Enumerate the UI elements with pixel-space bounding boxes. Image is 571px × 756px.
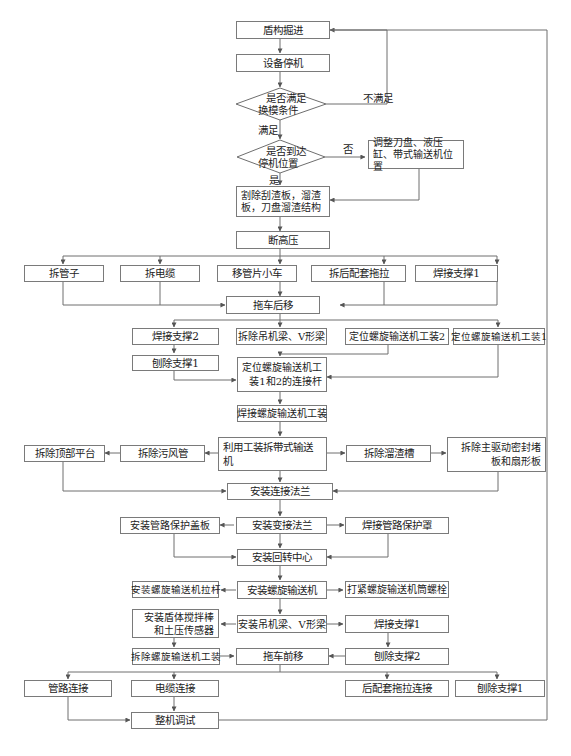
node-label: 整机调试 (155, 714, 195, 727)
node-label: 焊接管路保护罩 (362, 519, 432, 532)
node-move-segment-car: 移管片小车 (217, 265, 297, 282)
node-install-flange: 安装连接法兰 (227, 483, 333, 500)
node-label: 拖车后移 (253, 299, 293, 312)
node-pipe-connection: 管路连接 (24, 680, 112, 697)
node-position-connecting-rod: 定位螺旋输送机工装1和2的连接杆 (237, 357, 327, 392)
node-label: 焊接螺旋输送机工装 (237, 407, 327, 420)
node-install-adapter-flange: 安装变接法兰 (236, 517, 327, 534)
node-cut-scraper: 割除刮渣板，溜渣板，刀盘溜渣结构 (236, 186, 330, 217)
edge-label-satisfied: 满足 (258, 124, 278, 136)
node-label: 拆电缆 (145, 267, 175, 280)
node-label: 焊接支撑1 (374, 618, 421, 631)
node-label: 打紧螺旋输送机筒螺栓 (347, 583, 447, 596)
node-adjust-position: 调整刀盘、液压缸、带式输送机位置 (368, 140, 464, 169)
node-label: 刨除支撑1 (477, 682, 524, 695)
node-install-agitator-sensor: 安装盾体搅拌棒和土压传感器 (132, 609, 219, 638)
decision-mold-change: 是否满足 换模条件 (258, 92, 306, 116)
node-label: 盾构掘进 (263, 24, 303, 37)
node-install-pipe-cover: 安装管路保护盖板 (120, 517, 220, 534)
node-label: 后配套拖拉连接 (362, 682, 432, 695)
node-remove-cables: 拆电缆 (120, 265, 200, 282)
node-label: 刨除支撑2 (374, 650, 421, 663)
node-label: 设备停机 (263, 57, 303, 70)
node-equipment-stop: 设备停机 (236, 54, 330, 72)
node-trailer-back: 拖车后移 (226, 296, 320, 314)
node-remove-crane-beam: 拆除吊机梁、V形梁 (236, 328, 327, 345)
node-label: 拆除吊机梁、V形梁 (238, 330, 325, 343)
node-label: 焊接支撑1 (433, 267, 480, 280)
node-label: 定位螺旋输送机工装1和2的连接杆 (242, 361, 322, 389)
node-weld-pipe-shield: 焊接管路保护罩 (345, 517, 449, 534)
node-label: 定位螺旋输送机工装2 (349, 330, 445, 343)
node-label: 安装螺旋输送机拉杆 (131, 583, 221, 596)
node-trailer-forward: 拖车前移 (236, 648, 329, 665)
node-backup-tow-connection: 后配套拖拉连接 (345, 680, 449, 697)
node-label: 定位螺旋输送机工装1 (451, 330, 547, 343)
node-label: 拆后配套拖拉 (329, 267, 389, 280)
node-remove-pipes: 拆管子 (24, 265, 104, 282)
edge-label-no: 否 (343, 143, 353, 155)
decision-line-2: 换模条件 (258, 104, 306, 116)
node-position-tool-2: 定位螺旋输送机工装2 (345, 328, 449, 345)
node-remove-screw-tool: 拆除螺旋输送机工装 (132, 648, 220, 665)
node-label: 移管片小车 (232, 267, 282, 280)
node-remove-seal-plate: 拆除主驱动密封堵板和扇形板 (447, 437, 546, 472)
decision-stop-position: 是否到达 停机位置 (258, 145, 306, 169)
node-remove-chute: 拆除溜渣槽 (346, 445, 431, 462)
node-label: 焊接支撑2 (152, 330, 199, 343)
node-label: 安装盾体搅拌棒和土压传感器 (137, 611, 214, 637)
node-label: 安装连接法兰 (250, 485, 310, 498)
node-label: 安装吊机梁、V形梁 (238, 618, 325, 631)
node-shield-tunneling: 盾构掘进 (236, 21, 330, 39)
node-weld-support-1: 焊接支撑1 (415, 265, 498, 282)
node-label: 调整刀盘、液压缸、带式输送机位置 (373, 137, 459, 173)
node-position-tool-1: 定位螺旋输送机工装1 (453, 328, 545, 345)
node-tighten-screw-bolts: 打紧螺旋输送机筒螺栓 (345, 581, 449, 598)
node-remove-backup-tow: 拆后配套拖拉 (311, 265, 406, 282)
edge-label-yes: 是 (269, 174, 279, 186)
node-label: 拆除顶部平台 (35, 447, 95, 460)
node-label: 割除刮渣板，溜渣板，刀盘溜渣结构 (241, 190, 325, 214)
node-label: 安装管路保护盖板 (130, 519, 210, 532)
node-weld-support-2: 焊接支撑2 (132, 328, 219, 345)
node-cut-high-voltage: 断高压 (236, 231, 330, 249)
node-install-crane-beam: 安装吊机梁、V形梁 (237, 615, 327, 633)
decision-line-1: 是否到达 (258, 145, 306, 157)
decision-line-1: 是否满足 (258, 92, 306, 104)
node-label: 拆除溜渣槽 (364, 447, 414, 460)
node-label: 断高压 (268, 234, 298, 247)
node-weld-support-1b: 焊接支撑1 (345, 615, 449, 633)
node-machine-debug: 整机调试 (131, 712, 219, 729)
node-install-screw-conveyor: 安装螺旋输送机 (237, 581, 327, 599)
node-use-tool-remove-belt: 利用工装拆带式输送机 (218, 437, 327, 471)
node-label: 拆管子 (49, 267, 79, 280)
node-label: 拆除螺旋输送机工装 (131, 650, 221, 663)
node-install-rotary-center: 安装回转中心 (237, 549, 327, 566)
node-label: 安装回转中心 (252, 551, 312, 564)
node-weld-screw-tool: 焊接螺旋输送机工装 (237, 405, 327, 422)
decision-line-2: 停机位置 (258, 157, 306, 169)
node-plane-support-1b: 刨除支撑1 (455, 680, 545, 697)
node-label: 拖车前移 (263, 650, 303, 663)
node-plane-support-1: 刨除支撑1 (132, 355, 219, 371)
node-remove-top-platform: 拆除顶部平台 (24, 445, 105, 462)
node-label: 利用工装拆带式输送机 (223, 440, 322, 468)
node-label: 刨除支撑1 (152, 357, 199, 370)
node-label: 安装螺旋输送机 (247, 584, 317, 597)
node-remove-vent-pipe: 拆除污风管 (120, 445, 205, 462)
edge-label-not-satisfied: 不满足 (363, 92, 393, 104)
node-label: 电缆连接 (155, 682, 195, 695)
node-install-screw-rod: 安装螺旋输送机拉杆 (132, 581, 219, 598)
node-cable-connection: 电缆连接 (131, 680, 219, 697)
node-plane-support-2: 刨除支撑2 (345, 648, 449, 665)
node-label: 管路连接 (48, 682, 88, 695)
node-label: 拆除污风管 (138, 447, 188, 460)
node-label: 安装变接法兰 (252, 519, 312, 532)
node-label: 拆除主驱动密封堵板和扇形板 (452, 441, 541, 469)
